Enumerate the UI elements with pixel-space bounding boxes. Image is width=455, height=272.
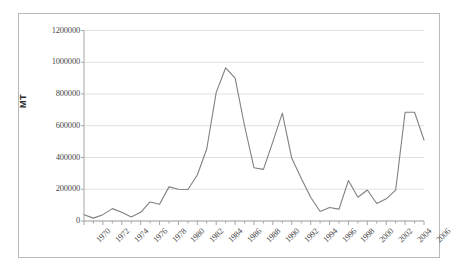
data-series-line <box>84 68 424 218</box>
plot-canvas <box>0 0 455 272</box>
grid-lines <box>84 31 424 222</box>
x-axis-ticks <box>84 221 424 225</box>
chart-figure: MT 0200000400000600000800000100000012000… <box>0 0 455 272</box>
